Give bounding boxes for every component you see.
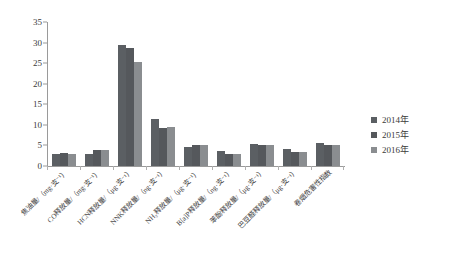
bar-chart: 05101520253035 焦油量/（mg·支⁻¹）CO释放量/（mg·支⁻¹… xyxy=(0,0,451,270)
bar xyxy=(299,152,307,166)
bar-groups xyxy=(47,22,344,166)
bar-group xyxy=(113,22,146,166)
bar-group xyxy=(245,22,278,166)
bar xyxy=(250,144,258,166)
bar xyxy=(118,45,126,166)
bar xyxy=(60,153,68,166)
bar xyxy=(258,145,266,166)
bar xyxy=(316,143,324,166)
legend-swatch xyxy=(371,132,377,138)
bar-group xyxy=(80,22,113,166)
x-tick-label: HCN释放量/（μg·支⁻¹） xyxy=(76,168,135,227)
bar xyxy=(134,62,142,167)
bar xyxy=(159,128,167,166)
bar xyxy=(291,152,299,166)
bar xyxy=(52,154,60,166)
bar xyxy=(324,145,332,166)
bar xyxy=(217,151,225,166)
bar-group xyxy=(47,22,80,166)
bar-group xyxy=(179,22,212,166)
bar xyxy=(283,149,291,166)
bar-group xyxy=(212,22,245,166)
bar xyxy=(93,150,101,166)
x-tick-label: B[a]P释放量/（ng·支⁻¹） xyxy=(175,168,235,228)
bar xyxy=(266,145,274,166)
x-tick-label: 巴豆醛释放量/（μg·支⁻¹） xyxy=(237,168,300,231)
bar-group xyxy=(278,22,311,166)
legend-label: 2015年 xyxy=(382,128,409,141)
legend-swatch xyxy=(371,147,377,153)
bar xyxy=(126,48,134,166)
x-axis-line xyxy=(47,166,345,167)
bar xyxy=(192,145,200,166)
bar xyxy=(167,127,175,166)
bar-group xyxy=(311,22,344,166)
bar xyxy=(233,154,241,166)
legend-label: 2014年 xyxy=(382,113,409,126)
bar xyxy=(85,154,93,166)
plot-area: 05101520253035 xyxy=(47,22,344,166)
legend-label: 2016年 xyxy=(382,143,409,156)
legend-item[interactable]: 2016年 xyxy=(371,142,445,157)
x-axis-tick-labels: 焦油量/（mg·支⁻¹）CO释放量/（mg·支⁻¹）HCN释放量/（μg·支⁻¹… xyxy=(47,168,344,268)
x-tick-label: 苯酚释放量/（μg·支⁻¹） xyxy=(209,168,267,226)
bar xyxy=(151,119,159,166)
bar xyxy=(200,145,208,166)
legend: 2014年2015年2016年 xyxy=(371,112,445,157)
bar xyxy=(68,154,76,166)
bar-group xyxy=(146,22,179,166)
legend-item[interactable]: 2015年 xyxy=(371,127,445,142)
bar xyxy=(225,154,233,166)
bar xyxy=(184,147,192,166)
legend-swatch xyxy=(371,117,377,123)
legend-item[interactable]: 2014年 xyxy=(371,112,445,127)
bar xyxy=(101,150,109,166)
bar xyxy=(332,145,340,166)
